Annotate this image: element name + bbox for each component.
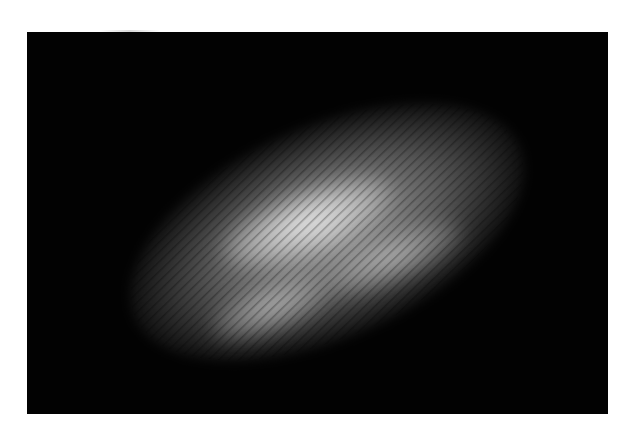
photo-frame bbox=[27, 32, 608, 414]
interference-fringes bbox=[92, 51, 561, 414]
